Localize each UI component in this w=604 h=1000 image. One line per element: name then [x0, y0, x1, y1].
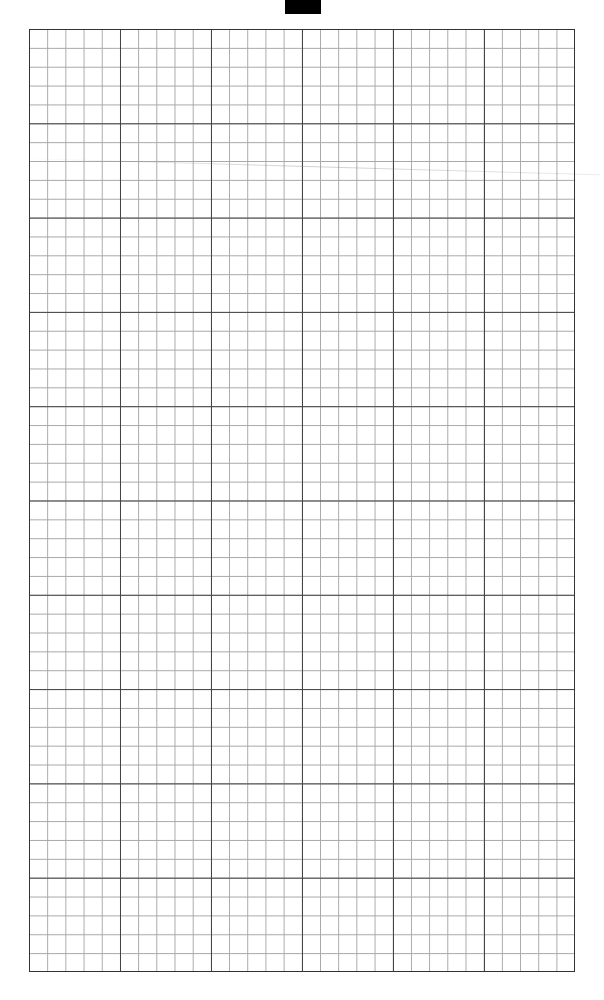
top-black-tab: [285, 0, 321, 14]
